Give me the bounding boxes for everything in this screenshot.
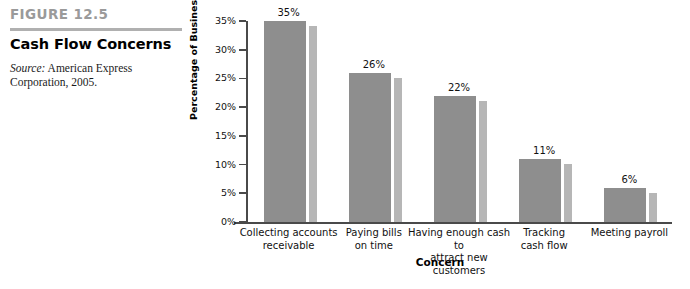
bar-value-label: 6% — [594, 174, 664, 185]
x-axis-tick-label-line: cash flow — [490, 240, 599, 253]
bar-side-panel — [394, 78, 402, 222]
y-axis-tick — [239, 20, 246, 22]
figure-title: Cash Flow Concerns — [10, 36, 171, 52]
source-note: Source: American Express Corporation, 20… — [10, 62, 185, 89]
y-axis-tick — [239, 135, 246, 137]
bar-chart: Percentage of Business Owners 0%5%10%15%… — [190, 0, 690, 289]
bar-value-label: 26% — [339, 59, 409, 70]
plot-area: 35%26%22%11%6% — [246, 21, 672, 222]
y-axis-tick-label: 30% — [194, 44, 236, 55]
bar-value-label: 35% — [254, 7, 324, 18]
bar — [604, 188, 646, 222]
bar-value-label: 11% — [509, 145, 579, 156]
y-axis-tick — [239, 221, 246, 223]
bar — [434, 96, 476, 222]
figure-caption-block: FIGURE 12.5 Cash Flow Concerns Source: A… — [10, 0, 188, 289]
y-axis-tick-label: 25% — [194, 72, 236, 83]
y-axis-tick — [239, 106, 246, 108]
figure-divider-rule — [10, 28, 182, 31]
x-axis-line — [234, 222, 672, 224]
source-label: Source: — [10, 62, 45, 74]
bar-side-panel — [309, 26, 317, 222]
y-axis-tick-label: 10% — [194, 159, 236, 170]
y-axis-tick — [239, 164, 246, 166]
bar — [349, 73, 391, 222]
bar-side-panel — [564, 164, 572, 222]
y-axis-tick-label: 20% — [194, 101, 236, 112]
bar-side-panel — [479, 101, 487, 222]
bar-value-label: 22% — [424, 82, 494, 93]
bar — [519, 159, 561, 222]
x-axis-title: Concern — [190, 256, 690, 268]
bar-side-panel — [649, 193, 657, 222]
y-axis-tick-label: 0% — [194, 216, 236, 227]
x-axis-tick-label-line: Meeting payroll — [575, 227, 684, 240]
y-axis-tick — [239, 78, 246, 80]
y-axis-tick-label: 5% — [194, 187, 236, 198]
y-axis-tick — [239, 192, 246, 194]
y-axis-tick-label: 35% — [194, 15, 236, 26]
y-axis-tick — [239, 49, 246, 51]
bar — [264, 21, 306, 222]
x-axis-tick-label: Meeting payroll — [575, 227, 684, 240]
figure-number-label: FIGURE 12.5 — [10, 6, 108, 22]
y-axis-tick-label: 15% — [194, 130, 236, 141]
